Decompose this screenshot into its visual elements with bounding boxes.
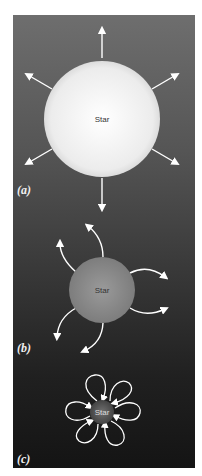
arrow-icon [28, 75, 52, 89]
arrow-icon [60, 243, 76, 272]
diagram-svg: Star Star Star [0, 0, 202, 476]
loop-arrow-icon [76, 421, 98, 443]
loop-arrow-icon [105, 421, 124, 445]
star-a-label: Star [95, 115, 110, 124]
arrow-icon [130, 308, 165, 313]
loop-arrow-icon [86, 375, 106, 401]
panel-b-label: (b) [17, 341, 31, 356]
arrow-icon [152, 75, 176, 89]
arrow-icon [84, 323, 103, 351]
arrow-icon [152, 149, 176, 163]
arrow-icon [57, 308, 76, 337]
arrow-icon [130, 269, 165, 277]
panel-c-label: (c) [17, 452, 30, 467]
panel-a-label: (a) [17, 183, 31, 198]
loop-arrow-icon [66, 402, 90, 420]
star-b-label: Star [95, 286, 110, 295]
arrow-icon [28, 149, 52, 163]
star-c-label: Star [95, 408, 110, 417]
arrow-icon [88, 226, 103, 257]
loop-arrow-icon [110, 381, 132, 403]
loop-arrow-icon [115, 403, 140, 420]
